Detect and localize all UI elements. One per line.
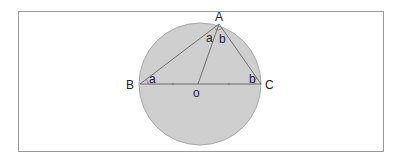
label-b-vertex: B <box>126 78 134 92</box>
angle-label-c: b <box>249 72 256 86</box>
tick-mark <box>228 83 230 85</box>
label-a-vertex: A <box>215 10 223 24</box>
angle-label-a-right: b <box>219 32 226 46</box>
label-c-vertex: C <box>265 78 274 92</box>
geometry-diagram: A B C o a b a b <box>0 0 404 165</box>
angle-label-b: a <box>149 72 156 86</box>
tick-mark <box>172 83 174 85</box>
angle-label-a-left: a <box>206 31 213 45</box>
label-o-center: o <box>193 86 200 100</box>
